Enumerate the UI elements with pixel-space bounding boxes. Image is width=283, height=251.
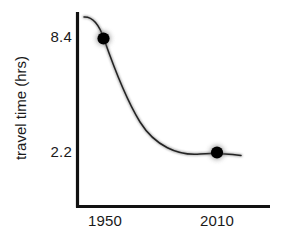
x-axis-tick-label-1950: 1950 (88, 212, 122, 229)
data-point-1950 (97, 32, 109, 44)
chart-plot-area (0, 0, 283, 251)
y-axis-tick-label-lower: 2.2 (51, 143, 72, 160)
y-axis-title: travel time (hrs) (12, 56, 29, 160)
y-axis-tick-label-upper: 8.4 (51, 28, 72, 45)
x-axis-tick-label-2010: 2010 (200, 212, 234, 229)
data-point-2010 (211, 146, 223, 158)
travel-time-chart: 8.4 2.2 1950 2010 travel time (hrs) (0, 0, 283, 251)
